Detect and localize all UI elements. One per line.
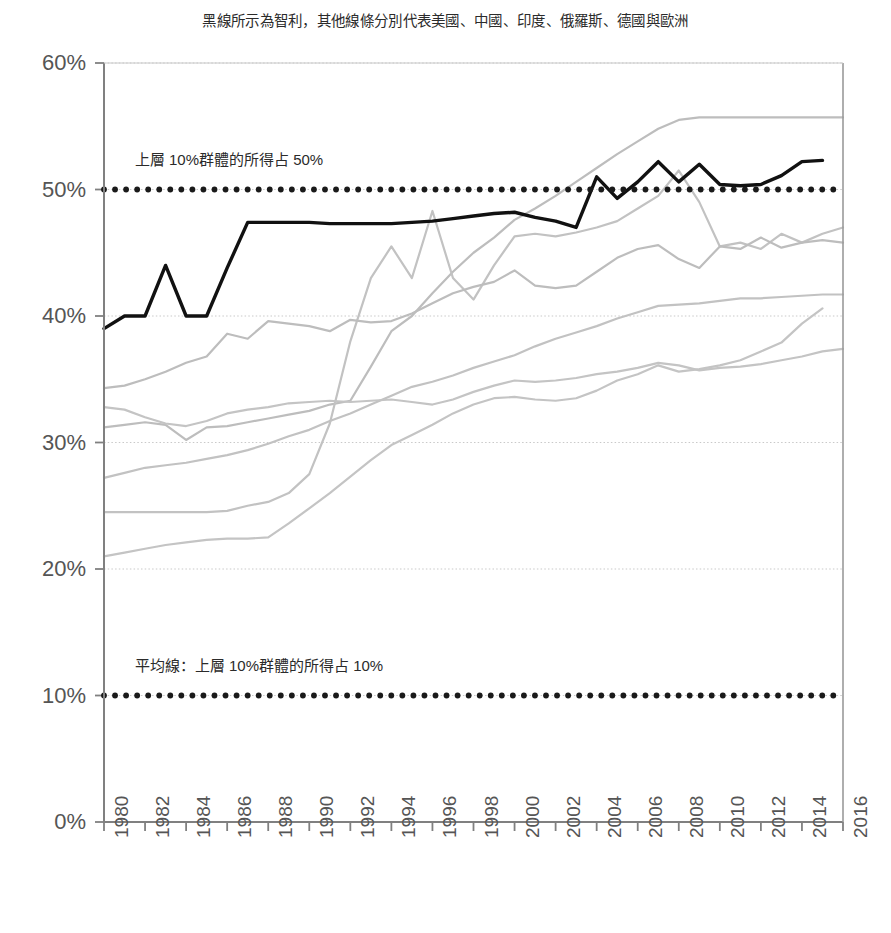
y-tick-label: 20% — [10, 556, 86, 582]
x-tick-label: 2000 — [522, 796, 544, 838]
x-tick-label: 1980 — [111, 796, 133, 838]
y-tick-label: 40% — [10, 303, 86, 329]
annotation-label: 平均線：上層 10%群體的所得占 10% — [135, 654, 383, 675]
y-tick-label: 10% — [10, 683, 86, 709]
x-tick-label: 1990 — [316, 796, 338, 838]
x-tick-label: 1982 — [152, 796, 174, 838]
series-line — [104, 295, 843, 478]
x-tick-label: 1984 — [193, 796, 215, 838]
series-line-highlight — [104, 160, 822, 328]
plot-area — [0, 0, 891, 933]
series-line — [104, 171, 843, 513]
series-line — [104, 349, 843, 426]
x-tick-label: 1992 — [357, 796, 379, 838]
x-tick-label: 2004 — [604, 796, 626, 838]
x-tick-label: 1998 — [481, 796, 503, 838]
axis-ticks — [95, 63, 843, 831]
x-tick-label: 2012 — [768, 796, 790, 838]
x-tick-label: 2016 — [850, 796, 872, 838]
x-tick-label: 1988 — [275, 796, 297, 838]
x-tick-label: 2002 — [563, 796, 585, 838]
x-tick-label: 2010 — [727, 796, 749, 838]
y-tick-label: 60% — [10, 50, 86, 76]
y-tick-label: 30% — [10, 430, 86, 456]
x-tick-label: 2008 — [686, 796, 708, 838]
chart-figure: 黑線所示為智利，其他線條分別代表美國、中國、印度、俄羅斯、德國與歐洲 0%10%… — [0, 0, 891, 933]
x-tick-label: 2014 — [809, 796, 831, 838]
annotation-label: 上層 10%群體的所得占 50% — [135, 148, 323, 169]
y-tick-label: 50% — [10, 177, 86, 203]
x-tick-label: 2006 — [645, 796, 667, 838]
axis-spines — [104, 63, 843, 822]
series-line — [104, 238, 843, 389]
series-lines — [104, 117, 843, 556]
series-line — [104, 308, 822, 556]
y-tick-label: 0% — [10, 809, 86, 835]
x-tick-label: 1996 — [439, 796, 461, 838]
x-tick-label: 1986 — [234, 796, 256, 838]
x-tick-label: 1994 — [398, 796, 420, 838]
